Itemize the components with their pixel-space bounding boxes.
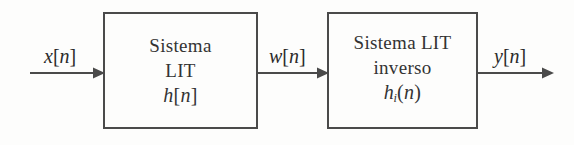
impulse-paren-close: ) xyxy=(414,81,421,103)
signal-bracket-open-y: [ xyxy=(503,45,510,67)
signal-bracket-open-w: [ xyxy=(282,45,289,67)
signal-label-middle: w[n] xyxy=(269,46,306,66)
signal-arg-w: n xyxy=(289,45,299,67)
impulse-paren-open: ( xyxy=(397,81,404,103)
signal-bracket-open-x: [ xyxy=(53,45,60,67)
impulse-arg-n-inverse: n xyxy=(404,81,414,103)
middle-arrow xyxy=(256,66,329,80)
signal-bracket-close-x: ] xyxy=(70,45,77,67)
block-lit-impulse-response: h[n] xyxy=(163,83,198,108)
signal-symbol-y: y xyxy=(494,45,503,67)
signal-symbol-w: w xyxy=(269,45,282,67)
output-arrow xyxy=(476,66,554,80)
block-lit-line-1: Sistema xyxy=(149,33,211,58)
signal-arg-x: n xyxy=(60,45,70,67)
block-lit-line-2: LIT xyxy=(165,58,195,83)
signal-symbol-x: x xyxy=(44,45,53,67)
signal-bracket-close-w: ] xyxy=(299,45,306,67)
impulse-symbol-h-inverse: h xyxy=(384,81,394,103)
block-sistema-lit-inverso: Sistema LIT inverso hi(n) xyxy=(327,12,478,129)
impulse-bracket-open: [ xyxy=(174,84,181,106)
block-inverse-line-1: Sistema LIT xyxy=(354,30,452,55)
impulse-arg-n: n xyxy=(181,84,191,106)
impulse-bracket-close: ] xyxy=(191,84,198,106)
signal-label-input: x[n] xyxy=(44,46,76,66)
signal-label-output: y[n] xyxy=(494,46,526,66)
impulse-symbol-h: h xyxy=(163,84,173,106)
signal-bracket-close-y: ] xyxy=(520,45,527,67)
signal-arg-y: n xyxy=(510,45,520,67)
block-sistema-lit: Sistema LIT h[n] xyxy=(103,12,258,129)
block-inverse-impulse-response: hi(n) xyxy=(384,80,422,111)
block-inverse-line-2: inverso xyxy=(373,55,431,80)
block-diagram: x[n] Sistema LIT h[n] w[n] Sistema LIT i… xyxy=(0,0,574,145)
input-arrow xyxy=(30,66,105,80)
